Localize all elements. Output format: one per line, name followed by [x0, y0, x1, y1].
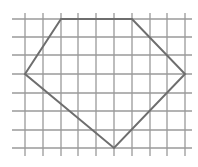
grid-svg [0, 0, 198, 167]
grid-diagram [0, 0, 198, 167]
pentagon-shape [25, 19, 185, 148]
